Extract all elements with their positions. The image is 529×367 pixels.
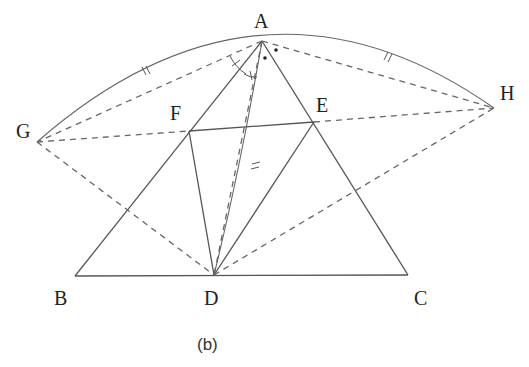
segment-fd bbox=[189, 131, 214, 275]
label-b: B bbox=[54, 287, 67, 309]
figure-caption: (b) bbox=[197, 335, 218, 354]
segment-dh bbox=[214, 108, 494, 275]
angle-dot-1 bbox=[263, 56, 267, 60]
segment-ab bbox=[75, 41, 262, 276]
label-d: D bbox=[204, 287, 218, 309]
segment-eh bbox=[314, 108, 494, 122]
segment-gf bbox=[37, 131, 189, 142]
label-c: C bbox=[414, 287, 427, 309]
segment-bc bbox=[75, 275, 408, 276]
label-f: F bbox=[170, 102, 181, 124]
label-h: H bbox=[500, 82, 514, 104]
label-g: G bbox=[16, 120, 30, 142]
segment-ag bbox=[37, 41, 262, 142]
segment-fe bbox=[189, 122, 314, 131]
label-a: A bbox=[254, 10, 269, 32]
segment-gd bbox=[37, 142, 214, 275]
label-e: E bbox=[316, 94, 328, 116]
geometry-figure: A B C D E F G H (b) bbox=[0, 0, 529, 367]
segment-ac bbox=[262, 41, 408, 275]
segment-ed bbox=[214, 122, 314, 275]
tick-arc-ad bbox=[251, 162, 260, 169]
segment-ad bbox=[214, 41, 262, 275]
angle-dot-2 bbox=[274, 48, 278, 52]
angle-tick-2 bbox=[250, 71, 252, 80]
